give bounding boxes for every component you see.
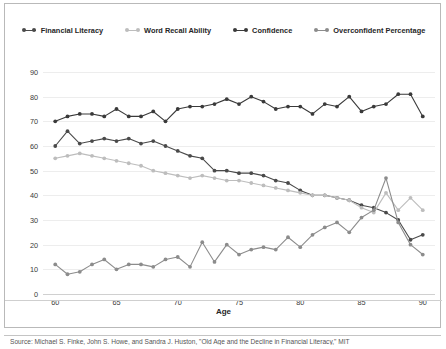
data-point [102,137,106,141]
data-point [323,193,327,197]
series-line [55,153,423,212]
data-point [249,181,253,185]
data-point [335,105,339,109]
data-point [213,102,217,106]
data-point [151,169,155,173]
data-point [225,179,229,183]
chart-figure: Financial LiteracyWord Recall AbilityCon… [0,0,446,349]
data-point [372,208,376,212]
data-point [176,149,180,153]
data-point [53,156,57,160]
data-point [372,105,376,109]
y-axis-tick: 30 [30,216,38,225]
data-point [249,248,253,252]
legend-item-4[interactable]: Overconfident Percentage [314,26,425,35]
axis-separator [5,300,442,301]
legend-item-1[interactable]: Financial Literacy [22,26,103,35]
data-point [225,169,229,173]
data-point [237,179,241,183]
data-point [213,260,217,264]
data-point [225,97,229,101]
data-point [396,92,400,96]
data-point [409,196,413,200]
y-axis-tick: 70 [30,117,38,126]
series-1 [53,129,424,241]
data-point [188,105,192,109]
y-axis-tick: 20 [30,240,38,249]
data-point [323,226,327,230]
data-point [298,191,302,195]
data-point [53,144,57,148]
data-point [176,107,180,111]
data-point [139,263,143,267]
data-point [188,176,192,180]
data-point [298,105,302,109]
data-point [115,107,119,111]
data-point [200,240,204,244]
data-point [262,174,266,178]
data-point [347,95,351,99]
y-axis-tick: 0 [34,290,38,299]
series-2 [53,152,424,215]
legend-label: Overconfident Percentage [333,26,425,35]
data-point [78,270,82,274]
data-point [274,186,278,190]
data-point [66,272,70,276]
data-point [139,142,143,146]
data-point [151,265,155,269]
data-point [200,156,204,160]
y-axis-tick: 10 [30,265,38,274]
data-point [78,142,82,146]
data-point [237,102,241,106]
data-point [200,105,204,109]
data-point [164,119,168,123]
data-point [200,174,204,178]
data-point [274,248,278,252]
data-point [237,253,241,257]
data-point [102,156,106,160]
data-point [115,139,119,143]
data-point [127,137,131,141]
data-point [347,198,351,202]
chart-legend: Financial LiteracyWord Recall AbilityCon… [5,21,442,39]
data-point [66,115,70,119]
data-point [311,112,315,116]
data-point [323,102,327,106]
data-point [164,144,168,148]
x-axis-line [43,294,435,295]
chart-card: Financial LiteracyWord Recall AbilityCon… [4,3,441,328]
data-point [90,263,94,267]
data-point [421,233,425,237]
data-point [384,102,388,106]
series-layer [43,72,435,294]
y-axis-tick: 90 [30,68,38,77]
data-point [360,110,364,114]
legend-label: Confidence [252,26,292,35]
legend-marker-icon [22,27,37,34]
data-point [274,179,278,183]
series-4 [53,176,424,276]
x-axis-label: Age [5,307,442,316]
legend-label: Financial Literacy [41,26,103,35]
caption-container: Source: Michael S. Finke, John S. Howe, … [4,335,441,349]
plot-area: 010203040506070809060657075808590 [43,72,435,294]
legend-marker-icon [314,27,329,34]
data-point [102,115,106,119]
data-point [66,154,70,158]
data-point [164,171,168,175]
data-point [286,189,290,193]
data-point [78,152,82,156]
data-point [66,129,70,133]
data-point [139,115,143,119]
data-point [127,161,131,165]
data-point [237,171,241,175]
data-point [409,238,413,242]
data-point [249,171,253,175]
data-point [127,263,131,267]
legend-item-2[interactable]: Word Recall Ability [125,26,211,35]
y-axis-tick: 40 [30,191,38,200]
legend-item-3[interactable]: Confidence [233,26,292,35]
series-line [55,94,423,121]
data-point [286,235,290,239]
legend-label: Word Recall Ability [144,26,211,35]
